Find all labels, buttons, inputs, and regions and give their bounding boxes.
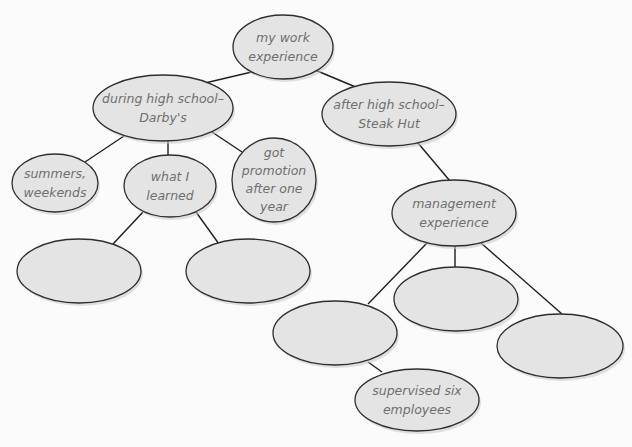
concept-map: my work experience during high school– D… — [0, 0, 632, 447]
node-root — [233, 15, 333, 79]
nodes — [12, 15, 623, 431]
edge-what-learned-blank-1 — [113, 212, 143, 244]
node-during-high-school — [93, 75, 233, 141]
node-learned-blank-1 — [17, 239, 141, 303]
node-after-high-school — [322, 82, 456, 146]
edge-what-learned-blank-2 — [196, 212, 219, 244]
edge-root-during-hs — [205, 71, 256, 83]
node-got-promotion — [232, 138, 316, 222]
node-supervised-six — [355, 369, 479, 431]
edge-blank-1-supervised — [368, 362, 382, 372]
edge-root-after-hs — [315, 70, 358, 88]
edge-after-hs-management — [418, 143, 450, 181]
node-what-i-learned — [124, 155, 216, 217]
node-management-experience — [392, 180, 516, 246]
node-learned-blank-2 — [186, 239, 310, 303]
node-summers-weekends — [12, 154, 98, 212]
node-management-blank-2 — [394, 267, 518, 331]
node-management-blank-3 — [497, 314, 623, 378]
edge-during-hs-promotion — [212, 132, 242, 152]
node-management-blank-1 — [273, 301, 397, 365]
diagram-canvas — [0, 0, 632, 447]
edge-during-hs-summers — [85, 136, 124, 162]
